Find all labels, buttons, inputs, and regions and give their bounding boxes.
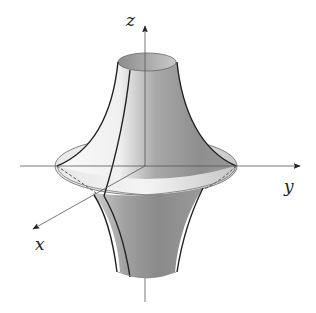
- x-axis-label: x: [35, 236, 45, 253]
- y-axis-label: y: [284, 178, 294, 195]
- lower-surface: [92, 188, 203, 278]
- surface-of-revolution-diagram: [0, 0, 316, 313]
- upper-surface: [57, 62, 236, 179]
- top-ellipse: [118, 53, 176, 71]
- z-axis-label: z: [126, 12, 135, 29]
